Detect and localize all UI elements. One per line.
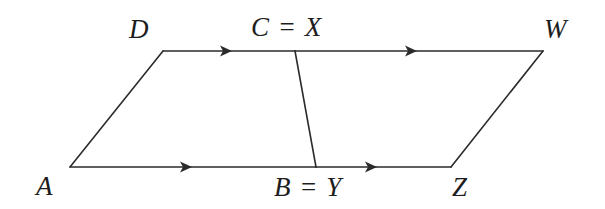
geometry-diagram-canvas: D C = X W A B = Y Z — [0, 0, 605, 209]
segment-AD — [70, 51, 163, 167]
vertex-label-D: D — [129, 16, 149, 43]
segment-WZ — [451, 51, 543, 167]
vertex-label-C-equals-X: C = X — [251, 14, 322, 41]
vertex-label-A: A — [36, 173, 53, 200]
vertex-label-W: W — [544, 16, 567, 43]
vertex-label-Z: Z — [452, 174, 468, 201]
vertex-label-B-equals-Y: B = Y — [274, 174, 342, 201]
segment-CB — [295, 51, 316, 167]
